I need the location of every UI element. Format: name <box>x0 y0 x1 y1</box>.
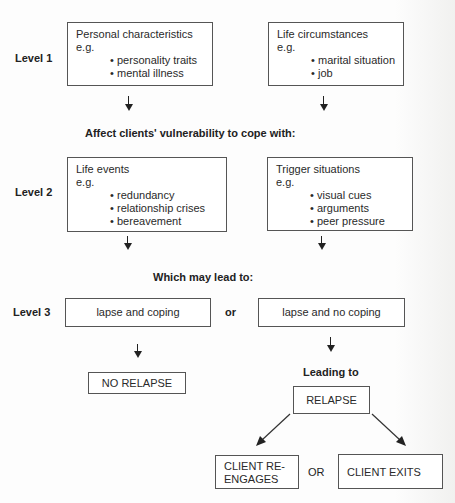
client-reengages-box: CLIENT RE- ENGAGES <box>215 455 299 489</box>
box-label: CLIENT EXITS <box>347 466 421 479</box>
or-connector-outcome: OR <box>308 466 325 478</box>
relapse-branch-arrows <box>0 0 455 503</box>
client-exits-box: CLIENT EXITS <box>338 454 443 489</box>
box-label: CLIENT RE- ENGAGES <box>224 460 285 486</box>
